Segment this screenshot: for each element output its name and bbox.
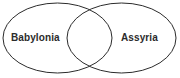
right-set-label: Assyria xyxy=(121,33,158,43)
venn-diagram: Babylonia Assyria xyxy=(0,0,180,78)
left-set-label: Babylonia xyxy=(11,33,60,43)
